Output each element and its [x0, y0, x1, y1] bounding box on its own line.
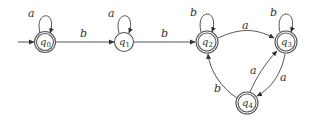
- label-q4-q3: a: [250, 64, 257, 77]
- state-q4: q4: [236, 92, 258, 114]
- automaton-diagram: a b a b b a b a a b q0 q1 q2 q3: [0, 0, 315, 121]
- transition-q0-loop: [39, 16, 52, 33]
- label-q1-q2: b: [161, 27, 168, 40]
- label-q0-loop: a: [28, 7, 35, 20]
- state-q3: q3: [275, 31, 297, 53]
- transition-q1-loop: [118, 16, 131, 33]
- transition-q3-loop: [279, 14, 293, 32]
- transition-q2-loop: [200, 14, 214, 32]
- state-q1: q1: [115, 33, 134, 52]
- label-q4-q2: b: [214, 82, 221, 95]
- state-q0: q0: [35, 32, 56, 53]
- transition-q4-q2: [208, 54, 237, 98]
- label-q1-loop: a: [108, 7, 115, 20]
- label-q2-loop: b: [190, 6, 197, 19]
- label-q3-q4: a: [280, 71, 287, 84]
- state-q2: q2: [196, 31, 218, 53]
- label-q2-q3: a: [242, 19, 249, 32]
- label-q0-q1: b: [80, 27, 87, 40]
- label-q3-loop: b: [270, 6, 277, 19]
